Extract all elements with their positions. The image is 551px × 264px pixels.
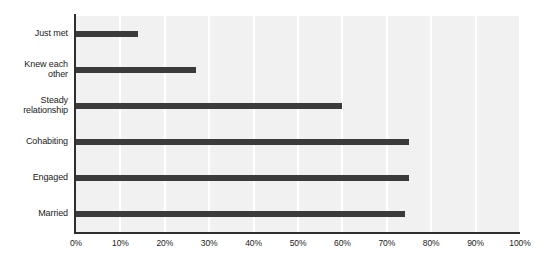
bar-row <box>76 16 520 52</box>
x-tick-label: 30% <box>189 238 229 248</box>
category-label-line: Knew each <box>4 59 68 70</box>
bar <box>76 211 405 217</box>
category-label: Cohabiting <box>4 136 68 147</box>
x-tick-label: 10% <box>100 238 140 248</box>
plot-area <box>76 16 520 232</box>
x-tick-label: 60% <box>322 238 362 248</box>
category-label-line: Cohabiting <box>4 136 68 147</box>
category-label: Just met <box>4 28 68 39</box>
category-label: Married <box>4 208 68 219</box>
bar-row <box>76 196 520 232</box>
category-label: Knew eachother <box>4 59 68 80</box>
x-tick-label: 50% <box>278 238 318 248</box>
x-tick-label: 0% <box>56 238 96 248</box>
bar-row <box>76 52 520 88</box>
bar-chart-figure: Just metKnew eachotherSteadyrelationship… <box>0 0 551 264</box>
x-tick-label: 70% <box>367 238 407 248</box>
bar <box>76 103 342 109</box>
y-axis-line <box>74 14 76 234</box>
bar <box>76 139 409 145</box>
bar <box>76 31 138 37</box>
category-label-line: Engaged <box>4 172 68 183</box>
category-label: Engaged <box>4 172 68 183</box>
category-label-line: other <box>4 69 68 80</box>
category-label: Steadyrelationship <box>4 95 68 116</box>
category-label-line: relationship <box>4 105 68 116</box>
x-axis-line <box>74 232 520 234</box>
x-tick-label: 100% <box>500 238 540 248</box>
bar-row <box>76 124 520 160</box>
bar <box>76 175 409 181</box>
x-tick-label: 80% <box>411 238 451 248</box>
x-tick-label: 40% <box>234 238 274 248</box>
x-tick-label: 90% <box>456 238 496 248</box>
category-label-line: Just met <box>4 28 68 39</box>
bar-row <box>76 160 520 196</box>
category-label-line: Married <box>4 208 68 219</box>
x-tick-label: 20% <box>145 238 185 248</box>
bar <box>76 67 196 73</box>
category-label-line: Steady <box>4 95 68 106</box>
bar-row <box>76 88 520 124</box>
